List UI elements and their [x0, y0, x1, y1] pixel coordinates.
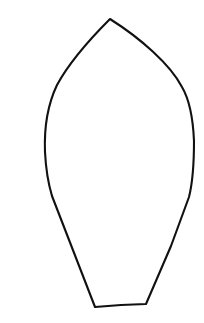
- leaf-outline-figure: [0, 0, 204, 323]
- canvas-background: [0, 0, 204, 323]
- drawing-canvas: [0, 0, 204, 323]
